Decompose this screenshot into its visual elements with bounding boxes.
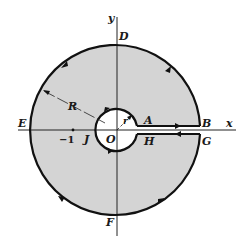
- x-axis-label: x: [225, 117, 233, 130]
- point-J-label: J: [82, 133, 90, 146]
- point-A-label: A: [143, 114, 153, 127]
- origin-label: O: [106, 133, 116, 146]
- tick-minus-one: [72, 129, 75, 132]
- point-D-label: D: [118, 30, 129, 43]
- point-G-label: G: [202, 135, 211, 148]
- point-H-label: H: [143, 135, 155, 148]
- y-axis-label: y: [107, 12, 116, 25]
- point-F-label: F: [105, 216, 115, 229]
- point-B-label: B: [201, 117, 211, 130]
- tick-label-minus-one: −1: [59, 134, 74, 145]
- keyhole-contour-diagram: y x D E F B G A H J O −1 R r: [0, 0, 246, 247]
- point-E-label: E: [17, 117, 27, 130]
- radius-R-label: R: [67, 100, 77, 113]
